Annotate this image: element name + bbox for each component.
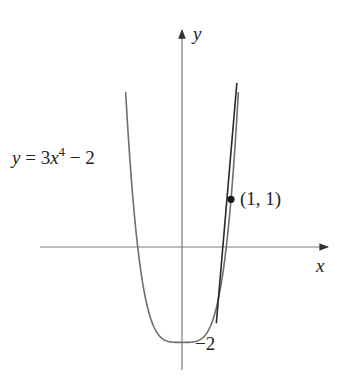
equation-y: y [10, 147, 21, 168]
y-axis-label: y [191, 23, 202, 44]
tangent-point-marker [227, 196, 234, 203]
x-axis-label: x [315, 255, 325, 276]
equation-label: y = 3x4 − 2 [10, 144, 95, 168]
equation-prefix: = 3 [20, 147, 50, 168]
point-label: (1, 1) [240, 188, 281, 210]
equation-suffix: − 2 [65, 147, 95, 168]
minus-two-label: −2 [195, 333, 215, 354]
tangent-line [216, 83, 237, 323]
graph-canvas: y x y = 3x4 − 2 (1, 1) −2 [0, 0, 340, 383]
